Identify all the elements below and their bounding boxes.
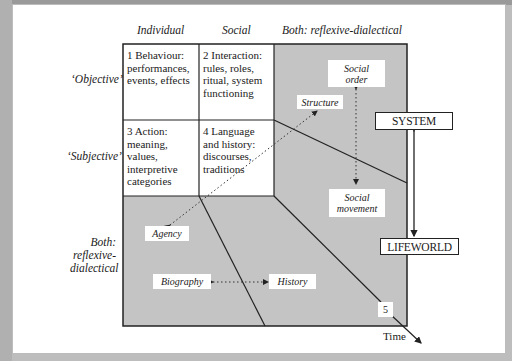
column-header-both: Both: reflexive-dialectical	[282, 24, 402, 37]
time-label: Time	[383, 330, 406, 343]
cell-language-line: discourses,	[203, 150, 270, 163]
tag-social-order-line1: Social	[344, 63, 369, 74]
cell-behaviour-line: events, effects	[127, 74, 195, 87]
system-label: SYSTEM	[392, 115, 436, 127]
tag-biography-text: Biography	[161, 276, 203, 287]
row-header-both-line3: dialectical	[70, 262, 116, 275]
column-header-social: Social	[222, 24, 251, 37]
tag-agency: Agency	[145, 226, 189, 241]
cell-interaction: 2 Interaction: rules, roles, ritual, sys…	[200, 45, 273, 103]
cell-interaction-line: functioning	[203, 87, 270, 100]
cell-action-line: categories	[127, 175, 195, 188]
cell-behaviour-line: performances,	[127, 62, 195, 75]
cell-interaction-title: 2 Interaction:	[203, 49, 270, 62]
tag-five: 5	[378, 302, 393, 317]
lifeworld-box: LIFEWORLD	[380, 238, 459, 255]
cell-language-history: 4 Language and history: discourses, trad…	[200, 121, 273, 179]
cell-behaviour-title: 1 Behaviour:	[127, 49, 195, 62]
cell-action-line: values,	[127, 150, 195, 163]
cell-action-title: 3 Action:	[127, 125, 195, 138]
tag-history: History	[269, 274, 316, 289]
tag-structure: Structure	[297, 95, 343, 109]
tag-social-movement-line2: movement	[337, 203, 378, 214]
row-header-both-line2: reflexive-	[70, 249, 116, 262]
row-header-subjective: ‘Subjective’	[67, 150, 122, 163]
cell-behaviour: 1 Behaviour: performances, events, effec…	[124, 45, 198, 91]
cell-language-line: and history:	[203, 138, 270, 151]
cell-action-line: meaning,	[127, 138, 195, 151]
row-header-both: Both: reflexive- dialectical	[70, 236, 116, 275]
tag-social-order-line2: order	[346, 74, 368, 85]
cell-interaction-line: rules, roles,	[203, 62, 270, 75]
cell-language-line: traditions	[203, 163, 270, 176]
cell-language-title: 4 Language	[203, 125, 270, 138]
row-header-both-line1: Both:	[70, 236, 116, 249]
tag-five-text: 5	[383, 304, 388, 315]
cell-action-line: interpretive	[127, 163, 195, 176]
cell-action: 3 Action: meaning, values, interpretive …	[124, 121, 198, 192]
tag-agency-text: Agency	[152, 228, 181, 239]
tag-history-text: History	[278, 276, 308, 287]
tag-structure-text: Structure	[302, 97, 339, 108]
tag-social-movement: Social movement	[329, 189, 385, 217]
tag-social-movement-line1: Social	[345, 192, 370, 203]
cell-interaction-line: ritual, system	[203, 74, 270, 87]
row-header-objective: ‘Objective’	[71, 73, 123, 86]
tag-social-order: Social order	[328, 60, 385, 87]
lifeworld-label: LIFEWORLD	[387, 241, 452, 253]
column-header-individual: Individual	[137, 24, 184, 37]
system-box: SYSTEM	[375, 112, 453, 130]
tag-biography: Biography	[153, 274, 211, 289]
